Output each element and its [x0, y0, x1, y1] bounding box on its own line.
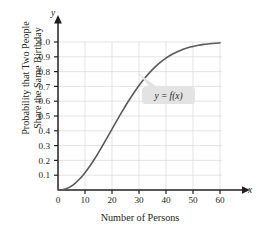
x-tick-label: 50: [188, 195, 198, 205]
birthday-probability-chart: 0.1 0.2 0.3 0.4 0.5 0.6 0.7 0.8 0.9 1.0 …: [0, 0, 263, 228]
y-tick-label: 0.8: [39, 67, 51, 77]
y-tick-label: 0.3: [39, 141, 51, 151]
x-tick-label: 60: [215, 195, 225, 205]
x-tick-label: 0: [56, 195, 61, 205]
y-tick-label: 0.7: [39, 82, 51, 92]
x-axis-title: Number of Persons: [101, 212, 180, 223]
y-tick-label: 0.5: [39, 111, 51, 121]
x-tick-label: 40: [161, 195, 171, 205]
x-tick-label: 20: [107, 195, 117, 205]
chart-canvas: 0.1 0.2 0.3 0.4 0.5 0.6 0.7 0.8 0.9 1.0 …: [0, 0, 263, 228]
y-tick-label: 0.6: [39, 96, 51, 106]
y-tick-label: 0.9: [39, 52, 51, 62]
x-tick-label: 10: [80, 195, 90, 205]
x-tick-label: 30: [134, 195, 144, 205]
axis-lines: [58, 22, 243, 190]
y-tick-label: 0.1: [39, 170, 51, 180]
y-tick-label: 0.2: [39, 156, 51, 166]
y-axis-variable-label: y: [50, 8, 56, 18]
x-axis-variable-label: x: [247, 185, 253, 195]
callout-label: y = f(x): [153, 91, 182, 102]
y-tick-label: 0.4: [39, 126, 51, 136]
x-tick-labels: 0 10 20 30 40 50 60: [56, 195, 225, 205]
grid-lines: [58, 42, 222, 190]
y-tick-label: 1.0: [39, 37, 51, 47]
y-tick-labels: 0.1 0.2 0.3 0.4 0.5 0.6 0.7 0.8 0.9 1.0: [39, 37, 51, 180]
